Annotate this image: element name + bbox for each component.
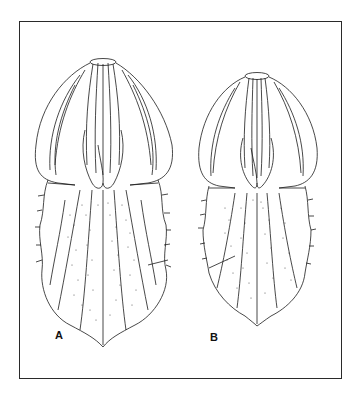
panel-a-drawing (30, 55, 180, 350)
panel-b-drawing (195, 68, 330, 333)
panel-label-a: A (55, 329, 63, 341)
panel-label-b: B (210, 331, 218, 343)
